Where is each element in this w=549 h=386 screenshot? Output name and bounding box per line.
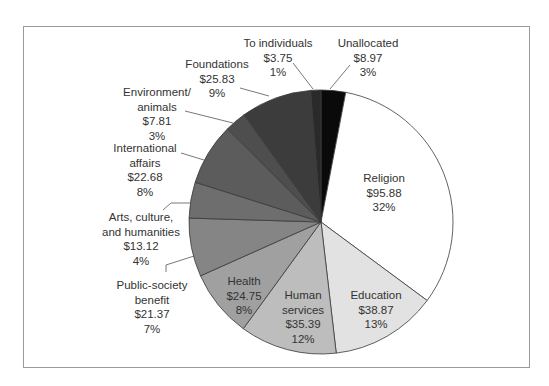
slice-name: Education <box>350 288 401 303</box>
slice-label: Health$24.758% <box>226 274 261 318</box>
leader-line <box>181 153 204 160</box>
slice-label: To individuals$3.751% <box>243 36 312 80</box>
leader-line <box>185 111 233 123</box>
slice-name: International <box>113 141 176 156</box>
slice-value: $95.88 <box>363 186 405 201</box>
slice-name: Unallocated <box>338 36 399 51</box>
slice-value: $35.39 <box>282 317 324 332</box>
slice-name: services <box>282 303 324 318</box>
slice-value: $24.75 <box>226 289 261 304</box>
slice-percent: 4% <box>102 254 180 269</box>
slice-percent: 13% <box>350 317 401 332</box>
slice-name: To individuals <box>243 36 312 51</box>
slice-name: Religion <box>363 171 405 186</box>
slice-name: Human <box>282 288 324 303</box>
slice-value: $38.87 <box>350 303 401 318</box>
slice-label: Arts, culture,and humanities$13.124% <box>102 210 180 268</box>
slice-value: $22.68 <box>113 170 176 185</box>
slice-percent: 12% <box>282 332 324 347</box>
slice-label: Humanservices$35.3912% <box>282 288 324 346</box>
slice-percent: 32% <box>363 200 405 215</box>
slice-percent: 1% <box>243 65 312 80</box>
slice-label: Public-societybenefit$21.377% <box>117 278 188 336</box>
slice-percent: 9% <box>185 86 248 101</box>
slice-percent: 7% <box>117 322 188 337</box>
slice-value: $8.97 <box>338 51 399 66</box>
slice-percent: 8% <box>226 303 261 318</box>
slice-name: animals <box>123 100 191 115</box>
slice-name: Public-society <box>117 278 188 293</box>
slice-name: and humanities <box>102 225 180 240</box>
slice-name: Environment/ <box>123 85 191 100</box>
slice-value: $25.83 <box>185 72 248 87</box>
slice-value: $21.37 <box>117 307 188 322</box>
slice-name: Foundations <box>185 57 248 72</box>
slice-name: Health <box>226 274 261 289</box>
slice-value: $13.12 <box>102 239 180 254</box>
slice-value: $7.81 <box>123 114 191 129</box>
slice-label: Religion$95.8832% <box>363 171 405 215</box>
slice-percent: 3% <box>123 129 191 144</box>
slice-name: Arts, culture, <box>102 210 180 225</box>
slice-percent: 8% <box>113 185 176 200</box>
slice-label: Environment/animals$7.813% <box>123 85 191 143</box>
leader-line <box>163 203 191 210</box>
slice-label: Foundations$25.839% <box>185 57 248 101</box>
slice-name: affairs <box>113 156 176 171</box>
slice-name: benefit <box>117 293 188 308</box>
slice-label: Internationalaffairs$22.688% <box>113 141 176 199</box>
slice-value: $3.75 <box>243 51 312 66</box>
slice-percent: 3% <box>338 65 399 80</box>
slice-label: Unallocated$8.973% <box>338 36 399 80</box>
slice-label: Education$38.8713% <box>350 288 401 332</box>
